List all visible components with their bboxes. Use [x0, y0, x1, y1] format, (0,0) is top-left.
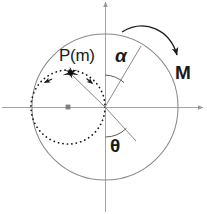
rotation-direction-arc-arrow — [122, 26, 177, 55]
physics-diagram-figure: P(m) α M θ — [0, 0, 207, 214]
alpha-angle-label: α — [115, 46, 127, 65]
moment-m-label: M — [175, 63, 191, 82]
theta-angle-label: θ — [110, 136, 120, 155]
dotted-circle-direction-arrows — [45, 79, 93, 84]
diagram-canvas — [0, 0, 207, 214]
radius-to-point-line — [71, 74, 106, 108]
dotted-circle-center-marker — [66, 105, 71, 110]
point-p-label: P(m) — [59, 47, 95, 64]
point-p-marker — [63, 66, 80, 79]
